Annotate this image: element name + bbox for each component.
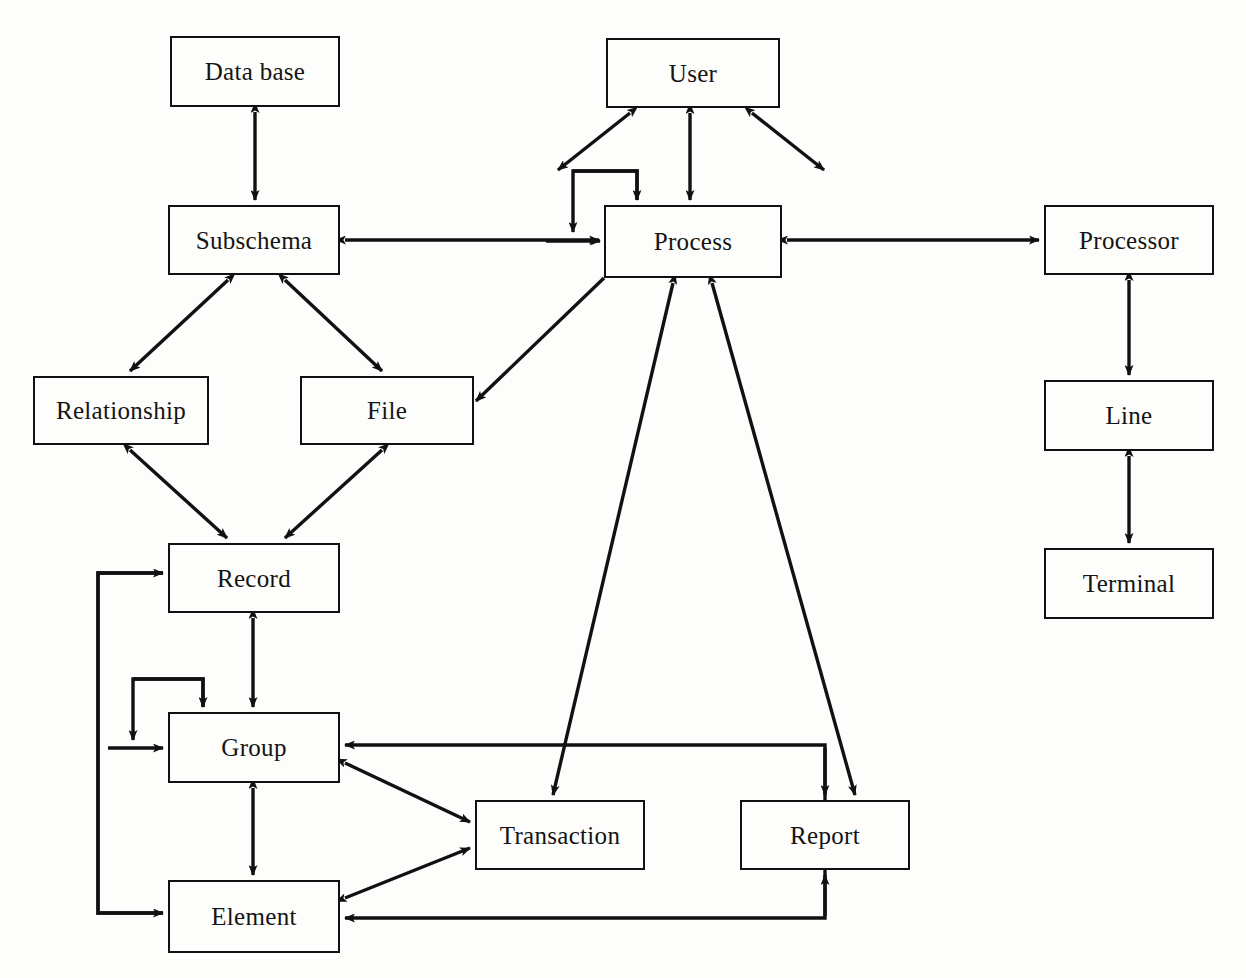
node-line-label: Line [1105, 403, 1152, 428]
edge-user-left-stub [558, 113, 630, 170]
node-terminal[interactable]: Terminal [1044, 548, 1214, 619]
edge-subschema-relationship [130, 280, 228, 371]
diagram-canvas: Data base User Subschema Process Process… [0, 0, 1246, 978]
edge-process-transaction [553, 283, 673, 795]
node-processor-label: Processor [1079, 228, 1179, 253]
node-relationship[interactable]: Relationship [33, 376, 209, 445]
edge-group-transaction [345, 763, 470, 822]
node-transaction[interactable]: Transaction [475, 800, 645, 870]
node-user[interactable]: User [606, 38, 780, 108]
edge-process-file [476, 278, 604, 401]
node-group-label: Group [221, 735, 286, 760]
edge-subschema-file [285, 280, 382, 371]
edge-element-transaction [345, 848, 470, 898]
node-file-label: File [367, 398, 407, 423]
node-process-label: Process [654, 229, 732, 254]
edge-relationship-record [130, 450, 227, 538]
edge-record-element-bracket [98, 573, 163, 913]
node-subschema-label: Subschema [196, 228, 313, 253]
edge-user-right-stub [752, 113, 824, 170]
edge-file-record [285, 450, 382, 538]
node-terminal-label: Terminal [1083, 571, 1175, 596]
node-relationship-label: Relationship [56, 398, 186, 423]
node-user-label: User [669, 61, 717, 86]
node-file[interactable]: File [300, 376, 474, 445]
edge-process-report [712, 283, 855, 795]
node-line[interactable]: Line [1044, 380, 1214, 451]
node-transaction-label: Transaction [500, 823, 620, 848]
edge-report-element [345, 870, 825, 918]
node-element[interactable]: Element [168, 880, 340, 953]
node-subschema[interactable]: Subschema [168, 205, 340, 275]
node-record[interactable]: Record [168, 543, 340, 613]
node-record-label: Record [217, 566, 291, 591]
node-processor[interactable]: Processor [1044, 205, 1214, 275]
node-database[interactable]: Data base [170, 36, 340, 107]
node-report-label: Report [790, 823, 860, 848]
node-report[interactable]: Report [740, 800, 910, 870]
edge-report-group [345, 745, 825, 800]
node-database-label: Data base [205, 59, 306, 84]
node-process[interactable]: Process [604, 205, 782, 278]
node-element-label: Element [211, 904, 296, 929]
node-group[interactable]: Group [168, 712, 340, 783]
